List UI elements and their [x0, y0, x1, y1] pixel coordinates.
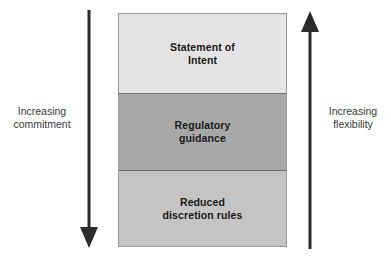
band-statement-of-intent: Statement of Intent	[119, 14, 286, 93]
band-label-regulatory-guidance: Regulatory guidance	[175, 119, 231, 144]
arrow-down-icon	[78, 10, 100, 249]
band-label-reduced-discretion-rules: Reduced discretion rules	[163, 196, 243, 221]
axis-label-commitment: Increasing commitment	[6, 105, 78, 131]
band-reduced-discretion-rules: Reduced discretion rules	[119, 171, 286, 246]
continuum-diagram: Increasing commitment Statement of Inten…	[0, 0, 391, 258]
axis-label-flexibility: Increasing flexibility	[318, 105, 388, 131]
band-label-statement-of-intent: Statement of Intent	[170, 41, 235, 66]
instrument-stack: Statement of Intent Regulatory guidance …	[118, 13, 287, 247]
band-regulatory-guidance: Regulatory guidance	[119, 93, 286, 171]
